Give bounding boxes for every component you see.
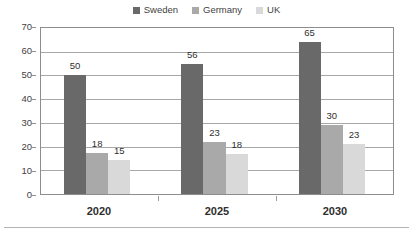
legend-swatch-germany — [192, 7, 199, 14]
bar-uk-2025[interactable]: 18 — [226, 154, 248, 194]
bar-germany-2020[interactable]: 18 — [86, 153, 108, 195]
bar-group-2025: 56 23 18 — [158, 28, 275, 194]
y-tick-label: 50 — [21, 70, 32, 80]
bar-groups: 50 18 15 56 23 — [41, 28, 393, 194]
y-tick-mark — [32, 195, 36, 196]
bar-value-label: 23 — [349, 130, 360, 140]
y-tick-mark — [32, 51, 36, 52]
footer-divider — [4, 227, 409, 228]
bar-value-label: 18 — [231, 140, 242, 150]
bar-slot: 50 — [64, 28, 86, 194]
bar-value-label: 50 — [70, 61, 81, 71]
bar-value-label: 18 — [92, 139, 103, 149]
bar-uk-2030[interactable]: 23 — [343, 144, 365, 194]
y-tick-label: 30 — [21, 118, 32, 128]
y-tick-label: 70 — [21, 22, 32, 32]
bar-slot: 56 — [181, 28, 203, 194]
bar-group-2020: 50 18 15 — [41, 28, 158, 194]
bar-sweden-2030[interactable]: 65 — [299, 42, 321, 194]
x-axis-separator — [276, 196, 277, 201]
bar-slot: 23 — [343, 28, 365, 194]
bar-germany-2025[interactable]: 23 — [203, 142, 225, 194]
bar-slot: 15 — [108, 28, 130, 194]
bar-slot: 18 — [86, 28, 108, 194]
legend-swatch-uk — [256, 7, 263, 14]
bar-value-label: 30 — [327, 111, 338, 121]
legend-item-uk: UK — [256, 5, 280, 15]
bar-slot: 30 — [321, 28, 343, 194]
y-tick-mark — [32, 27, 36, 28]
plot-area: 50 18 15 56 23 — [40, 27, 394, 195]
bar-uk-2020[interactable]: 15 — [108, 160, 130, 194]
x-axis-label-2025: 2025 — [158, 196, 276, 222]
y-tick-mark — [32, 75, 36, 76]
bar-value-label: 15 — [114, 146, 125, 156]
bar-slot: 65 — [299, 28, 321, 194]
x-axis: 2020 2025 2030 — [40, 196, 394, 222]
legend-swatch-sweden — [133, 7, 140, 14]
bar-value-label: 65 — [304, 28, 315, 38]
y-tick-mark — [32, 171, 36, 172]
y-axis: 70 60 50 40 30 20 10 0 — [0, 27, 36, 195]
y-tick-label: 20 — [21, 142, 32, 152]
bar-germany-2030[interactable]: 30 — [321, 125, 343, 194]
y-tick-label: 40 — [21, 94, 32, 104]
bar-slot: 18 — [226, 28, 248, 194]
chart-legend: Sweden Germany UK — [0, 2, 413, 18]
x-axis-separator — [158, 196, 159, 201]
legend-item-germany: Germany — [192, 5, 242, 15]
bar-value-label: 23 — [209, 128, 220, 138]
y-tick-label: 10 — [21, 166, 32, 176]
x-axis-label-2030: 2030 — [276, 196, 394, 222]
y-tick-mark — [32, 147, 36, 148]
y-tick-mark — [32, 99, 36, 100]
bar-sweden-2025[interactable]: 56 — [181, 64, 203, 194]
bar-group-2030: 65 30 23 — [276, 28, 393, 194]
y-tick-label: 60 — [21, 46, 32, 56]
bar-sweden-2020[interactable]: 50 — [64, 75, 86, 194]
legend-label-germany: Germany — [203, 5, 242, 15]
y-tick-mark — [32, 123, 36, 124]
x-axis-label-2020: 2020 — [40, 196, 158, 222]
legend-label-sweden: Sweden — [144, 5, 178, 15]
legend-label-uk: UK — [267, 5, 280, 15]
legend-item-sweden: Sweden — [133, 5, 178, 15]
bar-value-label: 56 — [187, 50, 198, 60]
bar-slot: 23 — [203, 28, 225, 194]
